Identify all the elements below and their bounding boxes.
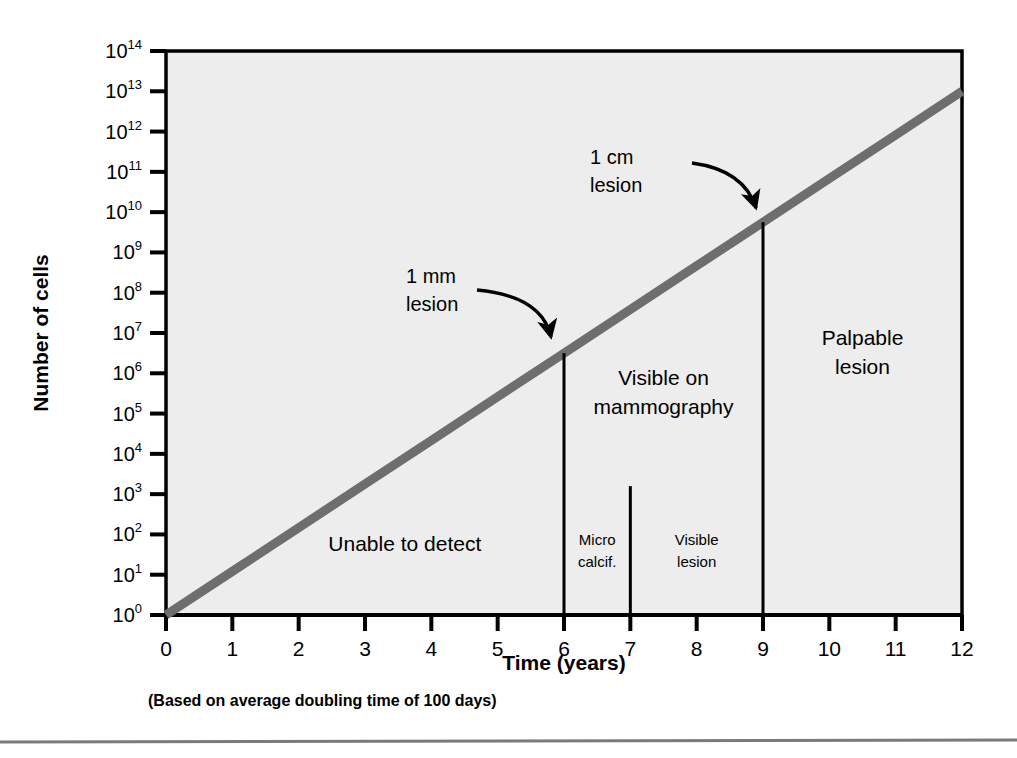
x-tick-label: 12 xyxy=(950,637,973,660)
x-tick-label: 9 xyxy=(757,637,769,660)
y-tick-label: 103 xyxy=(113,480,142,505)
y-tick-label: 102 xyxy=(113,520,142,545)
y-tick-label: 1013 xyxy=(105,77,142,102)
y-tick-label: 1011 xyxy=(106,158,142,183)
x-axis-tick-marks xyxy=(166,615,962,631)
footer-divider-rule xyxy=(0,740,1017,742)
y-axis-title: Number of cells xyxy=(29,254,52,412)
y-tick-label: 1012 xyxy=(105,118,142,143)
x-tick-label: 4 xyxy=(425,637,437,660)
tumor-growth-chart: 1001011021031041051061071081091010101110… xyxy=(0,0,1017,758)
x-axis-title: Time (years) xyxy=(502,651,625,674)
x-tick-label: 2 xyxy=(293,637,305,660)
y-tick-label: 1014 xyxy=(105,37,142,62)
y-axis-tick-labels: 1001011021031041051061071081091010101110… xyxy=(105,37,142,626)
figure-container: 1001011021031041051061071081091010101110… xyxy=(0,0,1017,758)
y-tick-label: 107 xyxy=(113,319,142,344)
x-tick-label: 10 xyxy=(818,637,841,660)
y-tick-label: 101 xyxy=(113,561,142,586)
y-axis-tick-marks xyxy=(150,51,166,615)
y-tick-label: 104 xyxy=(113,440,142,465)
y-tick-label: 100 xyxy=(113,601,142,626)
x-tick-label: 1 xyxy=(226,637,238,660)
y-tick-label: 108 xyxy=(113,279,142,304)
x-tick-label: 8 xyxy=(691,637,703,660)
figure-caption: (Based on average doubling time of 100 d… xyxy=(148,692,497,709)
y-tick-label: 106 xyxy=(113,359,142,384)
x-tick-label: 7 xyxy=(624,637,636,660)
y-tick-label: 105 xyxy=(113,400,142,425)
region-unable: Unable to detect xyxy=(328,532,481,555)
y-tick-label: 109 xyxy=(113,238,142,263)
x-tick-label: 11 xyxy=(885,637,907,660)
y-tick-label: 1010 xyxy=(105,198,142,223)
x-tick-label: 3 xyxy=(359,637,371,660)
x-tick-label: 0 xyxy=(160,637,172,660)
